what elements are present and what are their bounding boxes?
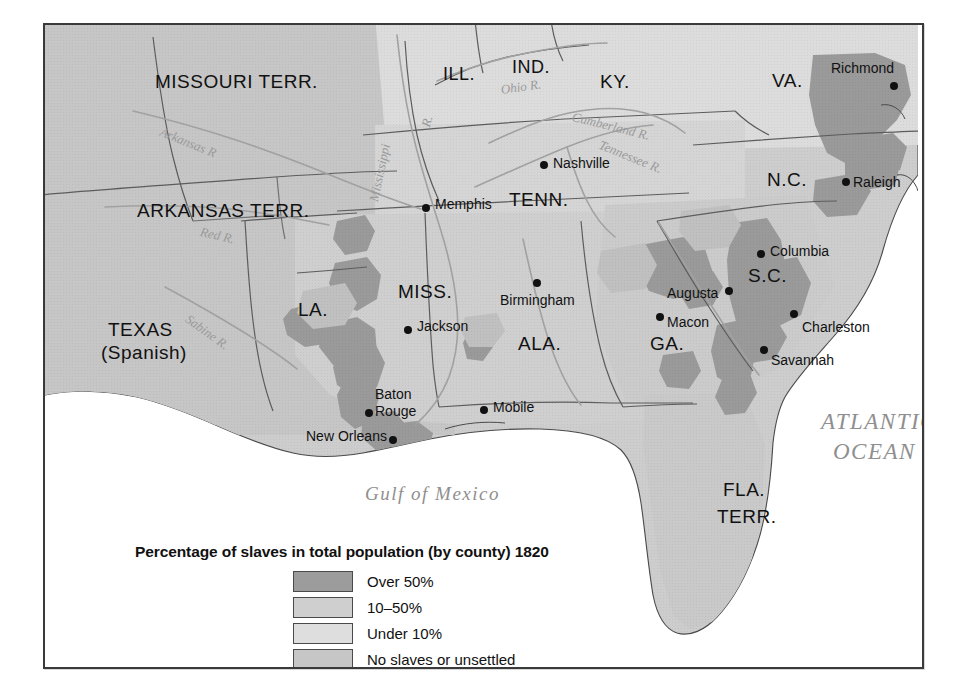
city-label-birmingham: Birmingham — [500, 293, 575, 308]
city-dot-richmond — [890, 82, 898, 90]
state-label-s-c: S.C. — [748, 266, 787, 286]
state-label-ky: KY. — [600, 72, 630, 92]
legend-label: No slaves or unsettled — [367, 651, 515, 668]
state-label-n-c: N.C. — [767, 170, 807, 190]
state-label-va: VA. — [772, 71, 803, 91]
state-label-spanish: (Spanish) — [101, 343, 187, 363]
legend-item-list: Over 50%10–50%Under 10%No slaves or unse… — [293, 570, 549, 669]
state-label-ala: ALA. — [518, 334, 561, 354]
state-label-ill: ILL. — [443, 65, 475, 84]
city-label-jackson: Jackson — [417, 319, 468, 334]
city-label-raleigh: Raleigh — [853, 175, 900, 190]
legend-item: No slaves or unsettled — [293, 648, 549, 669]
legend-item: Over 50% — [293, 570, 549, 593]
city-label-baton: Baton — [375, 387, 412, 402]
city-label-augusta: Augusta — [667, 286, 718, 301]
city-dot-savannah — [760, 346, 768, 354]
city-label-memphis: Memphis — [435, 197, 492, 212]
water-label-ocean: OCEAN — [833, 440, 916, 464]
state-label-la: LA. — [298, 300, 328, 320]
city-dot-mobile — [480, 406, 488, 414]
state-label-terr: TERR. — [717, 507, 777, 527]
legend-swatch — [293, 597, 353, 618]
city-dot-new-orleans — [389, 436, 397, 444]
city-label-new-orleans: New Orleans — [306, 429, 387, 444]
city-dot-macon — [656, 313, 664, 321]
state-label-arkansas-terr: ARKANSAS TERR. — [137, 201, 309, 221]
legend-label: 10–50% — [367, 599, 422, 616]
state-label-tenn: TENN. — [509, 190, 569, 210]
water-label-gulf-of-mexico: Gulf of Mexico — [365, 484, 500, 504]
city-label-charleston: Charleston — [802, 320, 870, 335]
map-frame: MISSOURI TERR.ILL.IND.KY.VA.N.C.ARKANSAS… — [43, 23, 924, 669]
state-label-missouri-terr: MISSOURI TERR. — [155, 72, 318, 92]
city-dot-rouge — [365, 409, 373, 417]
city-dot-memphis — [422, 204, 430, 212]
state-label-fla: FLA. — [723, 480, 765, 500]
legend-item: Under 10% — [293, 622, 549, 645]
city-dot-charleston — [790, 310, 798, 318]
city-label-columbia: Columbia — [770, 244, 829, 259]
legend-item: 10–50% — [293, 596, 549, 619]
legend-swatch — [293, 649, 353, 669]
city-dot-columbia — [757, 250, 765, 258]
map-figure: MISSOURI TERR.ILL.IND.KY.VA.N.C.ARKANSAS… — [0, 0, 962, 698]
legend-title: Percentage of slaves in total population… — [135, 543, 549, 561]
city-dot-jackson — [404, 326, 412, 334]
city-dot-augusta — [725, 287, 733, 295]
city-dot-birmingham — [533, 279, 541, 287]
legend-swatch — [293, 571, 353, 592]
city-label-savannah: Savannah — [771, 353, 834, 368]
state-label-ind: IND. — [512, 58, 550, 77]
water-label-atlantic: ATLANTIC — [821, 410, 924, 434]
legend-label: Over 50% — [367, 573, 434, 590]
city-label-richmond: Richmond — [831, 61, 894, 76]
city-dot-raleigh — [842, 178, 850, 186]
city-label-nashville: Nashville — [553, 156, 610, 171]
state-label-miss: MISS. — [398, 282, 452, 302]
city-label-macon: Macon — [667, 315, 709, 330]
legend-swatch — [293, 623, 353, 644]
state-label-texas: TEXAS — [108, 320, 173, 340]
state-label-ga: GA. — [650, 334, 684, 354]
city-label-rouge: Rouge — [375, 404, 416, 419]
city-label-mobile: Mobile — [493, 400, 534, 415]
city-dot-nashville — [540, 161, 548, 169]
map-legend: Percentage of slaves in total population… — [135, 543, 549, 669]
legend-label: Under 10% — [367, 625, 442, 642]
